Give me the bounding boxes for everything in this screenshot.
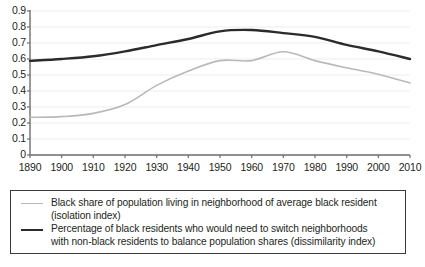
y-tick-label: 0.9 bbox=[0, 4, 26, 16]
x-tick-label: 1930 bbox=[142, 161, 172, 173]
legend-label-line-1: Black share of population living in neig… bbox=[51, 197, 377, 208]
series-line-dissimilarity-index bbox=[30, 30, 410, 61]
legend-item-label: Black share of population living in neig… bbox=[51, 197, 399, 222]
x-tick-label: 2000 bbox=[363, 161, 393, 173]
x-tick-label: 1900 bbox=[47, 161, 77, 173]
legend-label-line-1: Percentage of black residents who would … bbox=[51, 223, 368, 234]
x-tick-label: 2010 bbox=[395, 161, 425, 173]
dark-line-swatch-icon bbox=[21, 229, 43, 231]
x-tick-label: 1940 bbox=[173, 161, 203, 173]
y-tick-label: 0.1 bbox=[0, 132, 26, 144]
y-tick-label: 0.4 bbox=[0, 84, 26, 96]
chart-legend: Black share of population living in neig… bbox=[10, 190, 406, 254]
x-tick-label: 1970 bbox=[268, 161, 298, 173]
x-tick-label: 1890 bbox=[15, 161, 45, 173]
legend-item-dissimilarity-index: Percentage of black residents who would … bbox=[11, 223, 405, 248]
x-tick-label: 1980 bbox=[300, 161, 330, 173]
light-line-swatch-icon bbox=[21, 203, 43, 204]
x-tick-label: 1950 bbox=[205, 161, 235, 173]
legend-item-isolation-index: Black share of population living in neig… bbox=[11, 197, 405, 222]
line-chart-svg bbox=[0, 0, 418, 182]
y-tick-label: 0.5 bbox=[0, 68, 26, 80]
legend-label-line-2: with non-black residents to balance popu… bbox=[51, 236, 375, 247]
gridlines bbox=[30, 11, 410, 155]
plot-area: 00.10.20.30.40.50.60.70.80.9 18901900191… bbox=[0, 0, 418, 182]
series-line-isolation-index bbox=[30, 52, 410, 118]
x-tick-label: 1960 bbox=[237, 161, 267, 173]
x-tick-label: 1990 bbox=[332, 161, 362, 173]
y-tick-label: 0.6 bbox=[0, 52, 26, 64]
y-tick-label: 0.7 bbox=[0, 36, 26, 48]
legend-item-label: Percentage of black residents who would … bbox=[51, 223, 399, 248]
legend-label-line-2: (isolation index) bbox=[51, 210, 121, 221]
x-tick-label: 1910 bbox=[78, 161, 108, 173]
y-tick-label: 0.3 bbox=[0, 100, 26, 112]
y-tick-label: 0 bbox=[0, 148, 26, 160]
x-tick-label: 1920 bbox=[110, 161, 140, 173]
y-tick-label: 0.8 bbox=[0, 20, 26, 32]
y-tick-label: 0.2 bbox=[0, 116, 26, 128]
